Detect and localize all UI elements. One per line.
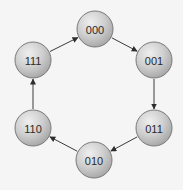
nodes-group: 000001011010110111 [15, 11, 172, 178]
edge-111-to-000 [50, 38, 78, 52]
state-node-001: 001 [136, 42, 172, 78]
node-label: 000 [86, 24, 104, 36]
state-node-000: 000 [77, 11, 113, 47]
node-label: 001 [145, 55, 163, 67]
state-node-011: 011 [136, 110, 172, 146]
edges-group [33, 38, 154, 152]
edge-011-to-010 [111, 137, 137, 151]
state-node-110: 110 [15, 110, 51, 146]
node-label: 111 [25, 55, 42, 67]
edge-010-to-110 [50, 137, 77, 151]
node-label: 011 [145, 123, 163, 135]
state-diagram: 000001011010110111 [0, 0, 183, 190]
state-node-111: 111 [15, 42, 51, 78]
node-label: 010 [85, 155, 103, 167]
node-label: 110 [24, 123, 42, 135]
edge-000-to-001 [112, 38, 137, 51]
state-node-010: 010 [76, 142, 112, 178]
